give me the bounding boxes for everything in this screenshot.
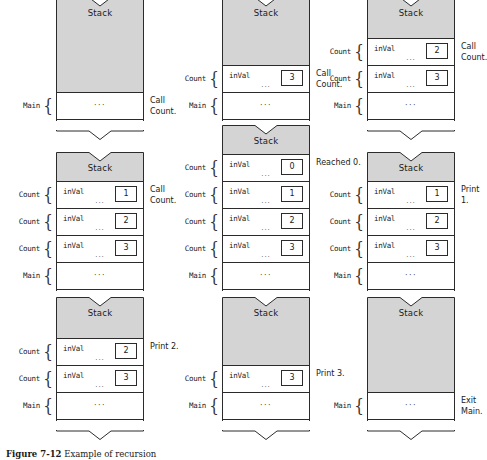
frame-variable-name: inVal [229,71,250,80]
stack-bottom-torn-edge-icon [367,130,455,140]
frame-label-main: Main{ [10,262,54,289]
frame-label-count: Count{ [10,338,54,365]
frame-label-count: Count{ [176,65,220,92]
stack-below-main-band [56,119,144,130]
frame-label-count: Count{ [321,208,365,235]
stack-frame-main: ··· [56,262,144,289]
stack-frame-count: inVal3··· [56,365,144,392]
frame-ellipsis: ··· [367,57,455,63]
frame-label-main: Main{ [321,392,365,419]
stack-frame-main: ··· [222,392,310,419]
frame-label-text: Main [334,401,351,410]
stack-frame-count: inVal3··· [56,235,144,262]
frame-ellipsis: ··· [222,271,310,280]
stack-top-torn-edge-icon [367,152,455,162]
stack-top-torn-edge-icon [56,152,144,162]
frame-label-text: Count [19,190,40,199]
step-annotation: Exit Main. [461,396,483,417]
stack-title: Stack [368,308,454,318]
frame-label-text: Count [330,47,351,56]
stack-frame-main: ··· [56,92,144,119]
frame-ellipsis: ··· [222,384,310,390]
frame-label-count: Count{ [321,181,365,208]
frame-label-count: Count{ [321,235,365,262]
frame-label-text: Main [23,101,40,110]
frame-variable-name: inVal [63,344,84,353]
frame-ellipsis: ··· [222,101,310,110]
frame-variable-name: inVal [374,214,395,223]
frame-variable-name: inVal [229,214,250,223]
frame-ellipsis: ··· [56,101,144,110]
stack-frame-count: inVal2··· [367,38,455,65]
frame-ellipsis: ··· [56,227,144,233]
stack-unused-region: Stack [367,307,455,392]
stack-panel: StackinVal2···inVal3······ [56,297,144,440]
step-annotation: Call Count. [150,185,176,206]
figure-caption-text: Example of recursion [64,449,156,459]
frame-label-text: Main [189,401,206,410]
frame-label-count: Count{ [10,208,54,235]
stack-frame-count: inVal1··· [56,181,144,208]
frame-label-text: Count [19,347,40,356]
stack-bottom-torn-edge-icon [222,430,310,440]
step-annotation: Print 1. [461,185,482,206]
stack-frame-main: ··· [367,262,455,289]
stack-frame-main: ··· [222,92,310,119]
frame-variable-name: inVal [63,371,84,380]
stack-unused-region: Stack [367,7,455,38]
stack-below-main-band [367,119,455,130]
stack-frame-count: inVal2··· [56,208,144,235]
stack-title: Stack [57,308,143,318]
frame-variable-name: inVal [63,241,84,250]
stack-title: Stack [368,163,454,173]
frame-label-main: Main{ [176,392,220,419]
frame-label-text: Count [185,163,206,172]
stack-frame-count: inVal2··· [222,208,310,235]
stack-panel: StackinVal0···inVal1···inVal2···inVal3··… [222,125,310,310]
stack-title: Stack [223,8,309,18]
stack-frame-count: inVal1··· [367,181,455,208]
frame-variable-name: inVal [374,71,395,80]
frame-label-count: Count{ [176,365,220,392]
stack-frame-count: inVal2··· [367,208,455,235]
figure-caption-label: Figure 7-12 [6,449,62,459]
frame-ellipsis: ··· [367,101,455,110]
frame-variable-name: inVal [374,187,395,196]
frame-label-text: Main [23,271,40,280]
frame-label-main: Main{ [10,92,54,119]
frame-label-text: Count [330,217,351,226]
stack-bottom-torn-edge-icon [367,430,455,440]
frame-ellipsis: ··· [367,200,455,206]
stack-below-main-band [222,419,310,430]
stack-below-main-band [367,419,455,430]
frame-label-count: Count{ [10,235,54,262]
stack-frame-count: inVal3··· [222,235,310,262]
stack-bottom-torn-edge-icon [56,430,144,440]
frame-label-text: Count [185,190,206,199]
frame-label-text: Main [334,271,351,280]
figure-caption: Figure 7-12 Example of recursion [6,449,156,459]
frame-variable-name: inVal [229,241,250,250]
frame-label-count: Count{ [176,154,220,181]
frame-ellipsis: ··· [367,271,455,280]
stack-unused-region: Stack [56,307,144,338]
frame-variable-name: inVal [229,160,250,169]
stack-frame-main: ··· [367,92,455,119]
frame-ellipsis: ··· [222,84,310,90]
frame-label-text: Count [19,217,40,226]
stack-title: Stack [57,163,143,173]
stack-panel: StackinVal3······ [222,297,310,440]
frame-ellipsis: ··· [222,254,310,260]
frame-ellipsis: ··· [222,401,310,410]
frame-label-text: Count [330,74,351,83]
stack-title: Stack [57,8,143,18]
frame-label-count: Count{ [176,208,220,235]
frame-ellipsis: ··· [367,254,455,260]
frame-ellipsis: ··· [367,227,455,233]
stack-frame-count: inVal3··· [367,65,455,92]
stack-top-torn-edge-icon [222,297,310,307]
frame-ellipsis: ··· [56,200,144,206]
stack-top-torn-edge-icon [222,125,310,135]
frame-label-count: Count{ [176,235,220,262]
frame-label-count: Count{ [321,65,365,92]
